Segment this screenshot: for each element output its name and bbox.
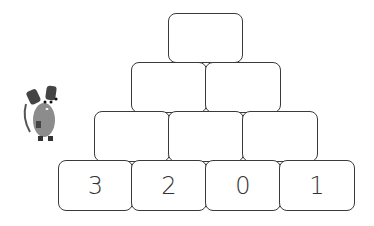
pyramid-cell-r3-c2: 0 <box>205 160 281 211</box>
pyramid-cell-r3-c0: 3 <box>58 160 133 211</box>
pyramid-cell-r1-c0[interactable] <box>131 62 207 113</box>
mouse-icon <box>20 84 64 144</box>
pyramid-cell-r2-c0[interactable] <box>94 111 170 162</box>
mascot-mouse <box>20 84 64 144</box>
pyramid-cell-top[interactable] <box>168 13 243 63</box>
pyramid-cell-r2-c1[interactable] <box>168 111 244 162</box>
pyramid-cell-r2-c2[interactable] <box>242 111 318 162</box>
pyramid-cell-r3-c1: 2 <box>131 160 207 211</box>
pyramid-cell-r3-c3: 1 <box>279 160 355 211</box>
pyramid-cell-r1-c1[interactable] <box>205 62 281 113</box>
